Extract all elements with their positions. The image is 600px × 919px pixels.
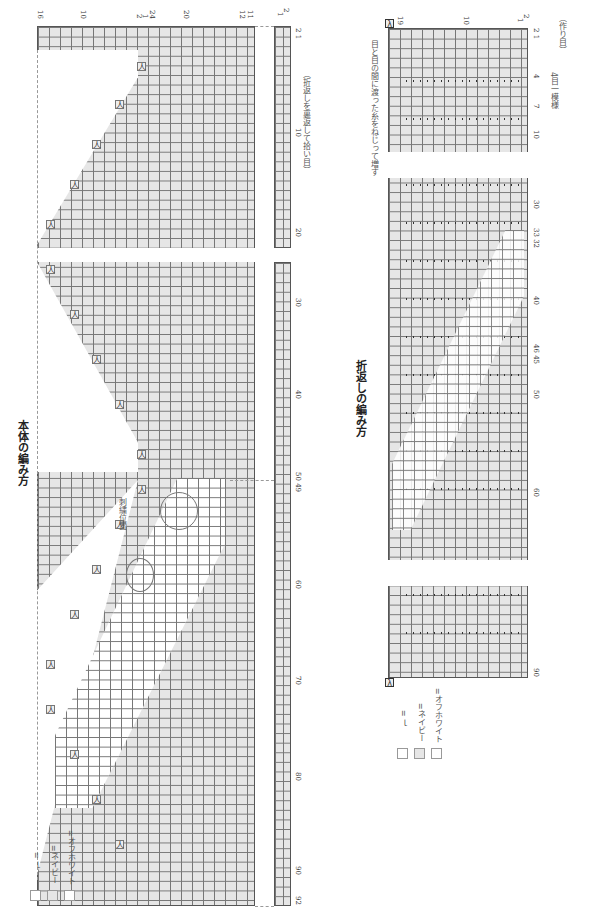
decrease-icon: 人 [70,310,79,319]
fold-chart-title: 折返しの編み方 [352,360,368,437]
purl-stitch-rows [402,590,522,610]
legend-label: = ｌ [31,852,42,869]
row-number: 2 1 [532,28,540,39]
row-number: 40 [532,296,540,305]
legend-swatch-blank [30,890,41,901]
decrease-icon: 人 [92,355,101,364]
guide-line [255,26,274,27]
stitch-label: 10 [462,16,470,25]
row-number: 50 [532,390,540,399]
legend-swatch-offwhite [64,890,75,901]
decrease-icon: 人 [46,220,55,229]
stitch-label: 19 [396,16,404,25]
legend-label: =ネイビー [48,845,59,884]
body-chart-title: 本体の編み方 [14,420,30,486]
decrease-icon: 人 [115,400,124,409]
stitch-label: 16 [36,10,44,19]
row-label: 1 [516,18,524,22]
legend-label: =オフホワイト [432,688,443,743]
decrease-icon: 人 [46,265,55,274]
stitch-label: 12 [238,10,246,19]
decrease-icon: 人 [137,450,146,459]
purl-stitch-rows [402,180,522,200]
guide-line [230,480,274,481]
row-number: 50 49 [294,472,302,492]
fold-chart-gap [386,560,531,586]
decrease-icon: 人 [46,660,55,669]
row-number: 33 32 [532,228,540,248]
purl-stitch-rows [402,114,522,134]
row-number: 60 [532,488,540,497]
decrease-icon: 人 [92,565,101,574]
row-number: 46 45 [532,344,540,364]
row-number: 10 [532,130,540,139]
stitch-label: 24 [148,10,156,19]
row-number: 7 [532,104,540,108]
embroidery-position-circle [126,558,154,592]
body-chart-edge-strip [274,262,291,906]
legend-swatch-navy [414,748,425,759]
row-number: 2 1 [294,28,302,39]
pickup-note: （折返しを裏返して拾い目） [300,70,311,174]
row-number: 20 [294,228,302,237]
row-number: 40 [294,390,302,399]
legend-swatch-offwhite [431,748,442,759]
purl-stitch-rows [402,628,522,648]
decrease-icon: 人 [70,610,79,619]
stitch-label: 10 [79,10,87,19]
row-number: 4 [532,74,540,78]
decrease-icon: 人 [137,62,146,71]
decrease-icon: 人 [115,840,124,849]
guide-line [37,50,38,880]
decrease-icon: 人 [137,485,146,494]
body-chart-edge-strip [274,26,291,248]
decrease-icon: 人 [46,705,55,714]
increase-icon: λ [385,19,394,28]
stitch-label: 20 [182,10,190,19]
stitch-label: 11 [246,10,254,19]
guide-line [255,906,274,907]
legend-label: =ネイビー [415,703,426,742]
row-number: 30 [532,200,540,209]
legend-swatch-blank [397,748,408,759]
embroidery-label: 刺繍位置 [116,498,127,530]
decrease-icon: 人 [115,100,124,109]
decrease-icon: 人 [92,140,101,149]
row-label: 1 [276,12,284,16]
body-chart-gap [37,248,257,262]
row-number: 70 [294,676,302,685]
row-number: 90 [294,866,302,875]
row-number: 90 [532,668,540,677]
purl-stitch-rows [402,76,522,96]
cast-on-note: （作り目） [556,14,567,54]
decrease-icon: 人 [70,750,79,759]
decrease-icon: 人 [92,795,101,804]
fold-chart-gap [386,152,531,178]
row-number: 92 [294,896,302,905]
row-number: 80 [294,772,302,781]
row-number: 60 [294,580,302,589]
increase-icon: λ [385,678,394,687]
legend-swatch-navy [47,890,58,901]
legend-label: =オフホワイト [65,830,76,885]
embroidery-position-circle [160,492,198,530]
decrease-icon: 人 [70,180,79,189]
legend-label: = ｌ [398,710,409,727]
repeat-note: 4目一模様 [548,72,559,109]
row-number: 30 [294,298,302,307]
increase-note: 目と目の間に渡った糸をねじって増す [368,40,379,176]
